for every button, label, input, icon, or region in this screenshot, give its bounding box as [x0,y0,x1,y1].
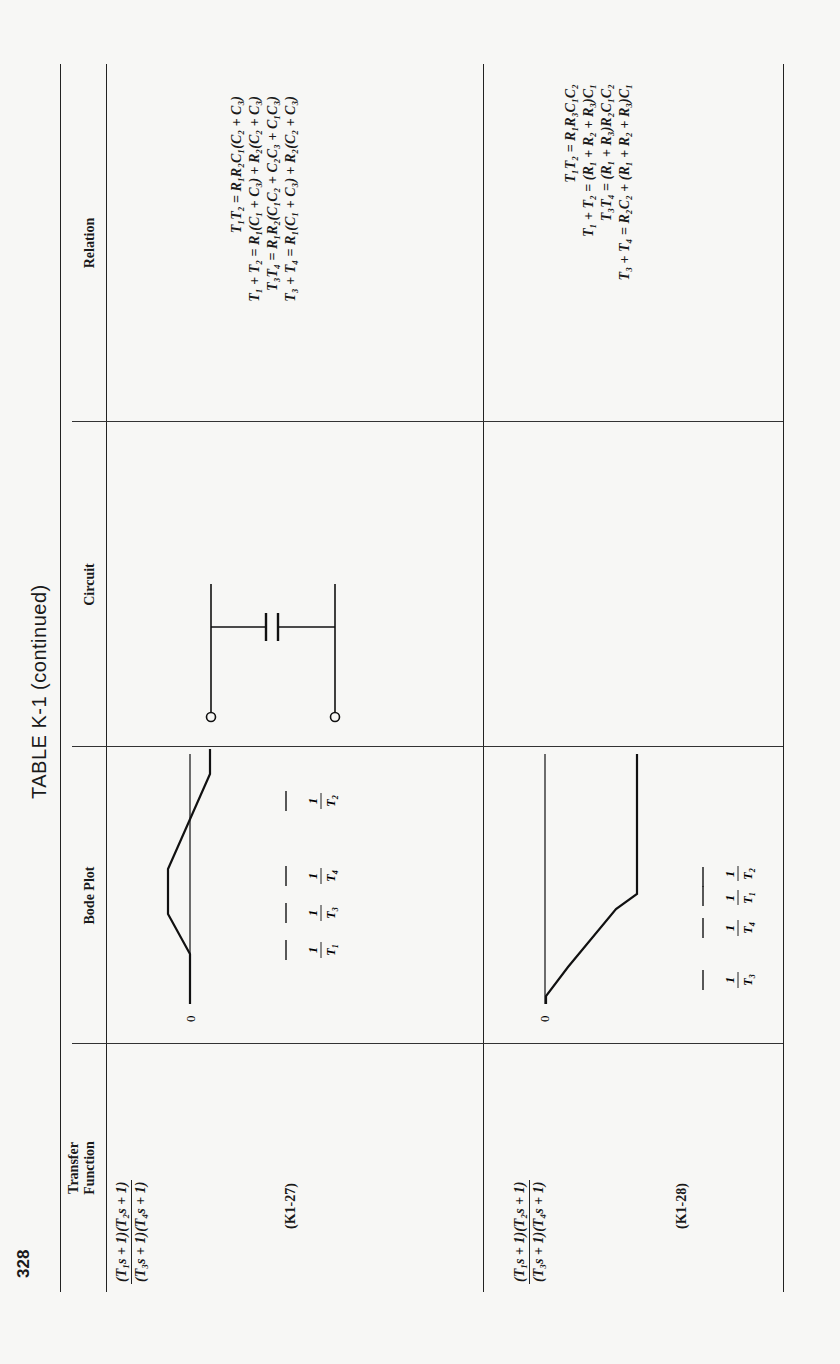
origin-label: 0 [183,1016,198,1023]
transfer-function-k1-28: (T₁s + 1)(T₂s + 1) (T₃s + 1)(T₄s + 1) [510,1180,547,1284]
svg-text:T3: T3 [741,974,757,985]
table-title: TABLE K-1 (continued) [28,584,51,799]
svg-text:T2: T2 [324,795,340,806]
svg-text:1: 1 [306,873,320,879]
svg-text:T3: T3 [324,907,340,918]
breakpoint-labels: 1T1 1T3 1T4 1T2 [306,793,340,958]
fraction: (T₁s + 1)(T₂s + 1) (T₃s + 1)(T₄s + 1) [114,1180,149,1284]
origin-label: 0 [537,1016,552,1023]
svg-text:T2: T2 [741,868,757,879]
svg-text:1: 1 [723,871,737,877]
circuit-k1-28 [483,422,783,747]
relation-line: T₃T₄ = R₁R₂(C₁C₂ + C₂C₃ + C₁C₃) [264,96,282,396]
fraction: (T₁s + 1)(T₂s + 1) (T₃s + 1)(T₄s + 1) [512,1180,547,1284]
rotated-page: 328 TABLE K-1 (continued) Transfer Funct… [0,0,840,1364]
numerator: (T₁s + 1)(T₂s + 1) [114,1180,132,1284]
relation-line: T₃ + T₄ = R₁(C₁ + C₃) + R₂(C₂ + C₃) [282,96,300,396]
header-bode-plot: Bode Plot [82,747,98,1044]
header-relation: Relation [82,64,98,422]
numerator: (T₁s + 1)(T₂s + 1) [512,1180,530,1284]
relation-line: T₁T₂ = R₁R₃C₁C₂ [562,84,580,374]
header-line: Function [82,1044,98,1292]
svg-text:1: 1 [723,895,737,901]
header-circuit: Circuit [82,422,98,747]
breakpoint-labels: 1T3 1T4 1T1 1T2 [723,866,757,988]
relation-k1-28: T₁T₂ = R₁R₃C₁C₂ T₁ + T₂ = (R₁ + R₂ + R₃)… [562,84,634,374]
svg-text:1: 1 [306,798,320,804]
page-number: 328 [14,1250,34,1278]
relation-line: T₁ + T₂ = (R₁ + R₂ + R₃)C₁ [580,84,598,374]
equation-label-k1-27: (K1-27) [283,1183,299,1229]
svg-text:1: 1 [306,947,320,953]
table-top-rule [60,64,61,1292]
relation-line: T₃ + T₄ = R₂C₂ + (R₁ + R₂ + R₃)C₁ [616,84,634,374]
header-transfer-function: Transfer Function [66,1044,98,1292]
svg-text:T1: T1 [324,944,340,955]
bode-plot-k1-28: 0 1T3 1T4 1T1 1T2 [483,747,783,1044]
denominator: (T₃s + 1)(T₄s + 1) [132,1182,149,1282]
svg-text:1: 1 [723,977,737,983]
circuit-k1-27 [106,422,483,747]
bode-plot-k1-27: 0 1T1 1T3 1T4 1T2 [106,747,483,1044]
header-line: Transfer [66,1044,82,1292]
transfer-function-k1-27: (T₁s + 1)(T₂s + 1) (T₃s + 1)(T₄s + 1) [112,1180,149,1284]
svg-text:1: 1 [723,925,737,931]
denominator: (T₃s + 1)(T₄s + 1) [530,1182,547,1282]
table-bottom-rule [783,64,784,1292]
relation-k1-27: T₁T₂ = R₁R₂C₁(C₂ + C₃) T₁ + T₂ = R₁(C₁ +… [228,96,300,396]
svg-text:T1: T1 [741,892,757,903]
relation-line: T₁ + T₂ = R₁(C₁ + C₃) + R₂(C₂ + C₃) [246,96,264,396]
svg-text:T4: T4 [324,870,340,881]
equation-label-k1-28: (K1-28) [674,1183,690,1229]
relation-line: T₃T₄ = (R₁ + R₃)R₂C₁C₂ [598,84,616,374]
svg-text:1: 1 [306,910,320,916]
svg-text:T4: T4 [741,922,757,933]
relation-line: T₁T₂ = R₁R₂C₁(C₂ + C₃) [228,96,246,396]
